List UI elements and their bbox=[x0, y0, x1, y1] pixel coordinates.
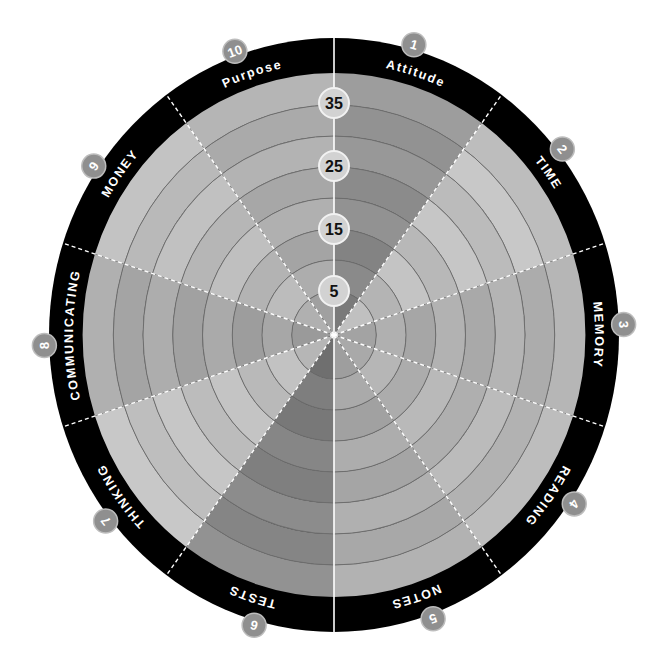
svg-text:8: 8 bbox=[37, 342, 52, 350]
sector-label-memory: MEMORY bbox=[590, 301, 606, 369]
sector-ring-segment[interactable] bbox=[232, 302, 265, 368]
svg-text:5: 5 bbox=[330, 283, 339, 300]
success-wheel: Success wheel AttitudeTIMEMEMORYREADINGN… bbox=[0, 0, 659, 664]
sector-number-badge: 9 bbox=[82, 154, 106, 178]
scale-marker-5: 5 bbox=[319, 276, 349, 306]
svg-text:15: 15 bbox=[325, 221, 343, 238]
wheel-diagram: AttitudeTIMEMEMORYREADINGNOTESTESTSTHINK… bbox=[0, 0, 659, 664]
sector-number-badge: 6 bbox=[242, 613, 266, 637]
sector-number-badge: 10 bbox=[223, 39, 247, 63]
scale-marker-35: 35 bbox=[319, 88, 349, 118]
sector-number-badge: 8 bbox=[32, 334, 56, 358]
sector-number-badge: 2 bbox=[550, 137, 574, 161]
sector-ring-segment[interactable] bbox=[402, 302, 435, 368]
sector-number-badge: 4 bbox=[562, 492, 586, 516]
svg-text:35: 35 bbox=[325, 95, 343, 112]
scale-marker-15: 15 bbox=[319, 214, 349, 244]
svg-text:3: 3 bbox=[616, 321, 631, 329]
sector-number-badge: 5 bbox=[421, 607, 445, 631]
sector-number-badge: 3 bbox=[612, 312, 636, 336]
scale-marker-25: 25 bbox=[319, 151, 349, 181]
svg-text:25: 25 bbox=[325, 158, 343, 175]
sector-number-badge: 7 bbox=[94, 509, 118, 533]
sector-number-badge: 1 bbox=[402, 33, 426, 57]
